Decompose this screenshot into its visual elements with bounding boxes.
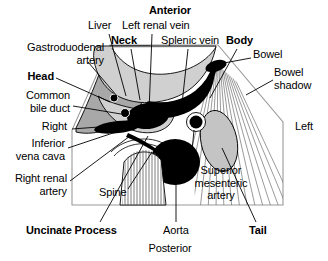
label-head: Head (0, 70, 54, 83)
label-liver: Liver (88, 19, 111, 32)
label-uncinate-process: Uncinate Process (26, 224, 117, 237)
label-spine: Spine (99, 186, 127, 199)
label-tail: Tail (249, 224, 267, 237)
label-inferior-vena-cava: Inferior vena cava (0, 137, 65, 162)
ultrasound-anatomy-diagram: Anterior Liver Left renal vein Neck Sple… (0, 0, 328, 261)
label-common-bile-duct: Common bile duct (0, 89, 70, 114)
label-right: Right (0, 120, 67, 133)
label-posterior: Posterior (120, 242, 220, 255)
label-left: Left (295, 120, 313, 133)
label-bowel: Bowel (253, 48, 282, 61)
label-neck: Neck (111, 34, 137, 47)
label-right-renal-artery: Right renal artery (0, 172, 67, 197)
label-bowel-shadow: Bowel shadow (274, 66, 311, 91)
label-anterior: Anterior (120, 4, 220, 17)
label-aorta: Aorta (163, 224, 189, 237)
label-left-renal-vein: Left renal vein (122, 19, 190, 32)
label-splenic-vein: Splenic vein (161, 34, 219, 47)
label-superior-mesenteric-artery: Superior mesenteric artery (185, 164, 257, 202)
superior-mesenteric-artery (187, 113, 206, 132)
label-gastroduodenal-artery: Gastroduodenal artery (6, 41, 104, 66)
label-body: Body (226, 34, 253, 47)
common-bile-duct (121, 109, 130, 118)
